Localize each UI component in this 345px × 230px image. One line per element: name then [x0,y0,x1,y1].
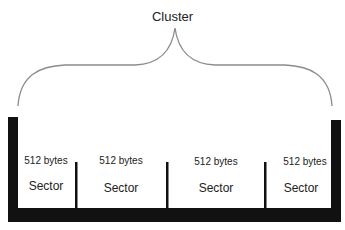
sector-4-size: 512 bytes [270,156,340,167]
sector-3-label: Sector [181,181,251,195]
sector-2-label: Sector [86,181,156,195]
cluster-brace [18,28,332,106]
base-bar [8,208,341,222]
cluster-title: Cluster [0,9,345,24]
sector-divider-2 [166,162,169,209]
sector-2-size: 512 bytes [86,155,156,166]
diagram-graphics [0,0,345,230]
cluster-diagram: Cluster 512 bytes Sector 512 bytes Secto… [0,0,345,230]
sector-4-label: Sector [266,181,336,195]
right-wall [331,120,341,222]
sector-1-label: Sector [11,179,81,193]
left-wall [8,117,18,222]
sector-1-size: 512 bytes [11,155,81,166]
sector-3-size: 512 bytes [181,156,251,167]
